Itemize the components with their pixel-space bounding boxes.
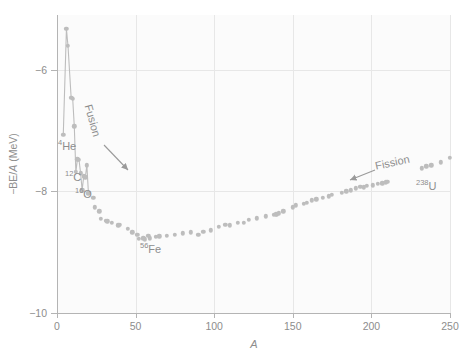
binding-energy-chart: 050100150200250−6−8−10 A −BE/A (MeV) 4He…: [0, 0, 476, 363]
fission-arrow: [350, 170, 375, 180]
annotation-arrows: [0, 0, 476, 363]
fusion-arrow: [104, 145, 128, 170]
